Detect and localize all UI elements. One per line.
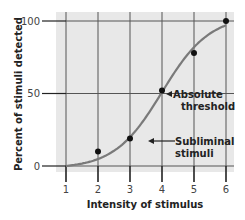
x-tick-label: 4 <box>159 184 165 195</box>
annotation-line-1: Subliminal <box>175 136 234 147</box>
x-tick-label: 2 <box>95 184 101 195</box>
annotation-line-2: stimuli <box>175 148 214 159</box>
data-point <box>191 50 197 56</box>
x-axis-title: Intensity of stimulus <box>87 199 204 210</box>
y-tick-label: 0 <box>34 161 40 172</box>
data-point <box>159 88 165 94</box>
x-tick-label: 6 <box>223 184 229 195</box>
annotation-line-1: Absolute <box>173 89 223 100</box>
psychometric-chart: 050100 123456 Absolute threshold Sublimi… <box>0 0 245 220</box>
data-point <box>95 149 101 155</box>
x-tick-label: 5 <box>191 184 197 195</box>
y-axis-title: Percent of stimuli detected <box>13 17 24 171</box>
y-tick-label: 50 <box>27 88 40 99</box>
x-tick-label: 1 <box>63 184 69 195</box>
data-point <box>223 18 229 24</box>
annotation-line-2: threshold <box>181 101 235 112</box>
x-tick-label: 3 <box>127 184 133 195</box>
data-point <box>127 135 133 141</box>
